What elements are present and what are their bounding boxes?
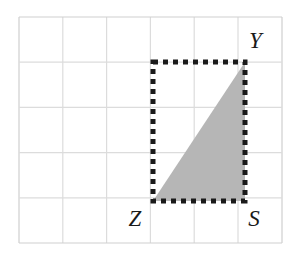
vertex-label-y: Y	[249, 28, 264, 53]
vertex-label-z: Z	[129, 206, 142, 231]
geometry-figure: Y Z S	[0, 0, 300, 255]
figure-canvas: Y Z S	[0, 0, 300, 255]
vertex-label-s: S	[248, 206, 260, 231]
